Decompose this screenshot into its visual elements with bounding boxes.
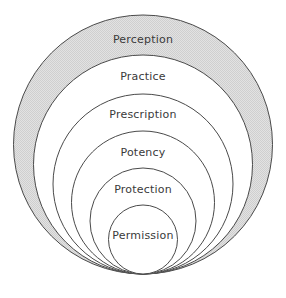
circle-layer <box>14 15 273 274</box>
diagram-canvas <box>0 0 286 298</box>
nested-circles-diagram: Perception Practice Prescription Potency… <box>0 0 286 298</box>
circle-ring-permission <box>109 205 178 274</box>
